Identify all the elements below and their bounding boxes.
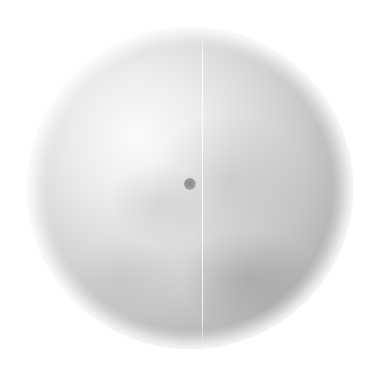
meridian-line [202, 28, 203, 348]
scene [0, 0, 373, 367]
center-spot [184, 178, 196, 190]
